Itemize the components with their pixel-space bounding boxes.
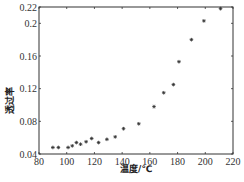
x-tick-label: 100: [59, 156, 74, 167]
data-point: [70, 144, 74, 148]
y-tick-label: 0.04: [20, 149, 38, 160]
data-point: [137, 122, 141, 126]
data-point: [97, 141, 101, 145]
y-axis-ticks: 0.040.080.120.160.20.22: [20, 2, 234, 160]
data-points: [51, 7, 222, 149]
x-tick-label: 120: [87, 156, 102, 167]
data-point: [219, 7, 223, 11]
plot-frame: [39, 7, 233, 154]
data-point: [202, 19, 206, 23]
data-point: [122, 127, 126, 131]
data-point: [113, 135, 117, 139]
y-tick-label: 0.16: [20, 51, 38, 62]
data-point: [51, 146, 55, 150]
data-point: [172, 83, 176, 87]
x-tick-label: 180: [170, 156, 185, 167]
data-point: [66, 146, 70, 150]
y-tick-label: 0.22: [20, 2, 38, 13]
x-tick-label: 200: [198, 156, 213, 167]
data-point: [79, 142, 83, 146]
x-tick-label: 220: [226, 156, 241, 167]
x-axis-ticks: 80100120140160180200220: [34, 7, 241, 167]
data-point: [177, 60, 181, 64]
data-point: [162, 91, 166, 95]
scatter-chart: 80100120140160180200220 0.040.080.120.16…: [0, 0, 244, 182]
plot-area: [39, 7, 233, 154]
data-point: [57, 146, 61, 150]
y-tick-label: 0.08: [20, 116, 38, 127]
data-point: [84, 140, 88, 144]
data-point: [152, 105, 156, 109]
y-axis-label: 透过率: [4, 87, 15, 114]
y-tick-label: 0.2: [25, 18, 38, 29]
y-tick-label: 0.12: [20, 83, 38, 94]
data-point: [105, 138, 109, 142]
data-point: [90, 137, 94, 141]
data-point: [75, 141, 79, 145]
x-axis-label: 温度/℃: [120, 163, 152, 174]
data-point: [190, 38, 194, 42]
